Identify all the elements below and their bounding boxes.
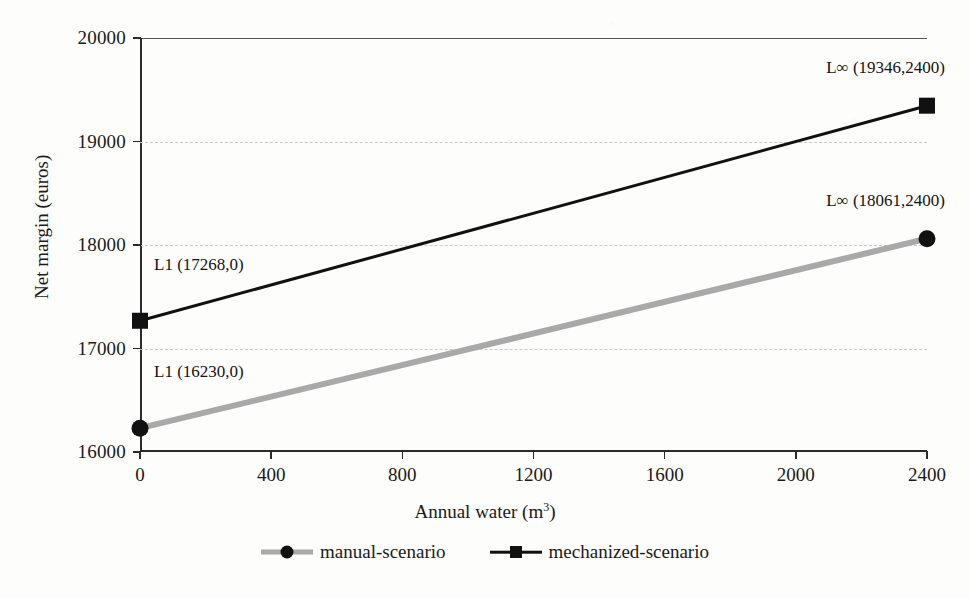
- point-annotation: L∞ (18061,2400): [826, 191, 945, 211]
- series-line-manual-scenario: [140, 239, 927, 429]
- y-tick-label: 18000: [0, 234, 126, 256]
- legend-item-mechanized-scenario[interactable]: mechanized-scenario: [490, 541, 709, 563]
- plot-area: L1 (17268,0)L1 (16230,0)L∞ (19346,2400)L…: [140, 38, 927, 452]
- x-tick-label: 400: [257, 464, 286, 486]
- square-marker-icon: [510, 546, 522, 558]
- legend-label-mechanized: mechanized-scenario: [549, 541, 709, 563]
- series-line-mechanized-scenario: [140, 106, 927, 321]
- legend-swatch-manual: [261, 545, 313, 559]
- data-point-marker: [132, 313, 148, 329]
- x-tick: [664, 451, 666, 459]
- x-tick: [139, 451, 141, 459]
- x-axis-title: Annual water (m3): [0, 500, 970, 523]
- y-tick-label: 16000: [0, 441, 126, 463]
- legend-label-manual: manual-scenario: [320, 541, 446, 563]
- x-tick: [270, 451, 272, 459]
- x-tick: [402, 451, 404, 459]
- chart-figure: Net margin (euros) L1 (17268,0)L1 (16230…: [0, 0, 970, 598]
- point-annotation: L1 (17268,0): [154, 255, 244, 275]
- y-tick-label: 20000: [0, 27, 126, 49]
- data-point-marker: [919, 230, 936, 247]
- y-tick-label: 17000: [0, 338, 126, 360]
- x-tick-label: 2000: [777, 464, 815, 486]
- x-tick-label: 800: [388, 464, 417, 486]
- data-point-marker: [919, 98, 935, 114]
- legend-swatch-mechanized: [490, 545, 542, 559]
- point-annotation: L∞ (19346,2400): [826, 58, 945, 78]
- y-axis-title: Net margin (euros): [31, 155, 53, 299]
- x-tick-label: 0: [135, 464, 145, 486]
- y-tick-label: 19000: [0, 131, 126, 153]
- data-point-marker: [132, 420, 149, 437]
- series-plot: [140, 38, 927, 452]
- legend-item-manual-scenario[interactable]: manual-scenario: [261, 541, 446, 563]
- x-tick-label: 1600: [646, 464, 684, 486]
- x-tick: [533, 451, 535, 459]
- x-tick-label: 2400: [908, 464, 946, 486]
- x-axis-title-tail: ): [549, 501, 555, 522]
- x-tick: [926, 451, 928, 459]
- point-annotation: L1 (16230,0): [154, 362, 244, 382]
- x-tick-label: 1200: [515, 464, 553, 486]
- circle-marker-icon: [281, 546, 294, 559]
- x-tick: [795, 451, 797, 459]
- chart-legend: manual-scenario mechanized-scenario: [0, 541, 970, 563]
- x-axis-title-base: Annual water (m: [414, 501, 543, 522]
